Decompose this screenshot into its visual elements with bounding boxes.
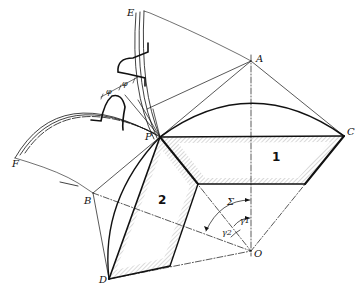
gear1-label: 1 xyxy=(272,151,280,163)
gamma1-label: γ1 xyxy=(240,217,250,225)
point-o-label: O xyxy=(254,249,262,259)
gamma2-label: γ2 xyxy=(222,229,232,237)
phi-left-label: φ xyxy=(106,88,112,96)
point-d-label: D xyxy=(99,275,107,285)
point-b-label: B xyxy=(84,196,91,206)
point-p-label: P xyxy=(145,132,152,142)
gear2-label: 2 xyxy=(158,194,166,206)
diagram-canvas xyxy=(0,0,357,287)
phi-right-label: φ xyxy=(122,80,128,88)
sigma-label: Σ xyxy=(227,197,234,207)
pitch-arc-f xyxy=(15,113,160,193)
point-f-label: F xyxy=(12,159,19,169)
point-a-label: A xyxy=(256,54,263,64)
bevel-gear-diagram: E A C P F B D O 1 2 Σ γ1 γ2 φ φ xyxy=(0,0,357,287)
pitch-arc-e xyxy=(135,11,251,139)
point-c-label: C xyxy=(347,127,355,137)
point-e-label: E xyxy=(127,8,134,18)
